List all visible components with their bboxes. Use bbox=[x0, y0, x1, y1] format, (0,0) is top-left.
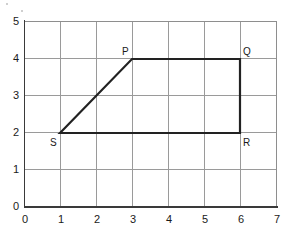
vertex-label-s: S bbox=[50, 137, 57, 148]
x-tick-label-3: 3 bbox=[130, 213, 136, 225]
x-tick-label-7: 7 bbox=[274, 213, 280, 225]
vertical-gridlines bbox=[61, 21, 241, 207]
x-tick-label-2: 2 bbox=[94, 213, 100, 225]
y-tick-label-4: 4 bbox=[13, 52, 19, 64]
artifact-speck bbox=[21, 10, 23, 12]
y-tick-label-2: 2 bbox=[13, 126, 19, 138]
x-tick-label-1: 1 bbox=[58, 213, 64, 225]
x-axis-tick-labels: 0 1 2 3 4 5 6 7 bbox=[22, 213, 280, 225]
y-tick-label-3: 3 bbox=[13, 89, 19, 101]
artifact-speck bbox=[6, 3, 8, 5]
vertex-label-r: R bbox=[243, 137, 250, 148]
y-tick-label-5: 5 bbox=[13, 15, 19, 27]
vertex-label-q: Q bbox=[243, 46, 251, 57]
geometry-figure: P Q R S 5 4 3 2 1 0 0 1 2 3 4 5 6 7 bbox=[0, 0, 294, 235]
y-tick-label-0: 0 bbox=[13, 200, 19, 212]
x-tick-label-4: 4 bbox=[166, 213, 172, 225]
x-tick-label-5: 5 bbox=[202, 213, 208, 225]
y-tick-label-1: 1 bbox=[13, 163, 19, 175]
vertex-label-p: P bbox=[122, 46, 129, 57]
y-axis-tick-labels: 5 4 3 2 1 0 bbox=[13, 15, 19, 212]
x-tick-label-0: 0 bbox=[22, 213, 28, 225]
x-tick-label-6: 6 bbox=[238, 213, 244, 225]
coordinate-plane-svg: P Q R S 5 4 3 2 1 0 0 1 2 3 4 5 6 7 bbox=[0, 0, 294, 235]
